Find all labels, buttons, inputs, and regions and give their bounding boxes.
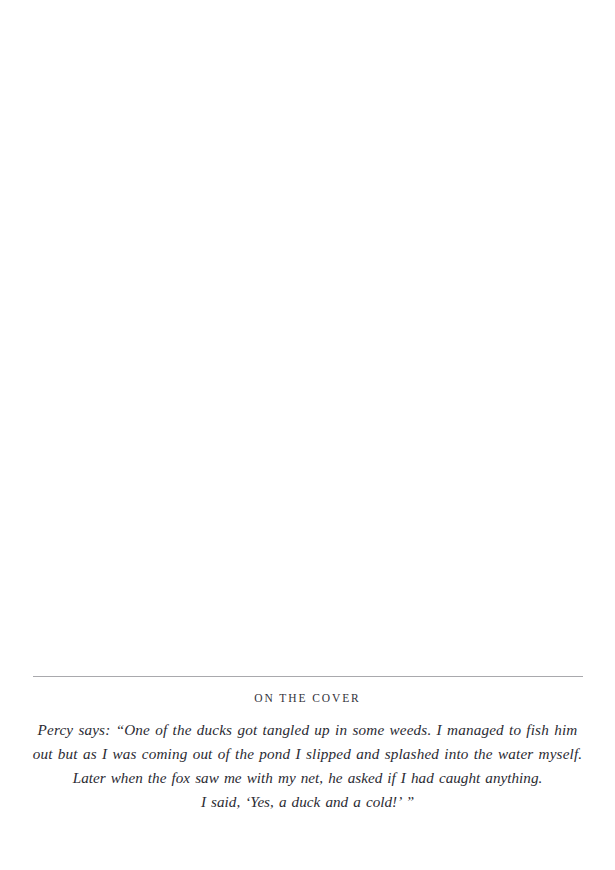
- section-heading: ON THE COVER: [0, 677, 615, 705]
- book-page: ON THE COVER Percy says: “One of the duc…: [0, 0, 615, 870]
- quote-line: Percy says: “One of the ducks got tangle…: [30, 718, 585, 742]
- on-the-cover-section: ON THE COVER Percy says: “One of the duc…: [0, 676, 615, 814]
- page-blank-area: [0, 0, 615, 675]
- cover-quote-text: Percy says: “One of the ducks got tangle…: [30, 705, 585, 814]
- quote-line: Later when the fox saw me with my net, h…: [30, 766, 585, 790]
- quote-line: out but as I was coming out of the pond …: [30, 742, 585, 766]
- quote-line: I said, ‘Yes, a duck and a cold!’ ”: [30, 790, 585, 814]
